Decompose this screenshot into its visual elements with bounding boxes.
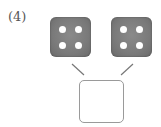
left-connector-line [72, 64, 84, 75]
right-connector-line [121, 64, 133, 75]
answer-box[interactable] [79, 80, 124, 123]
